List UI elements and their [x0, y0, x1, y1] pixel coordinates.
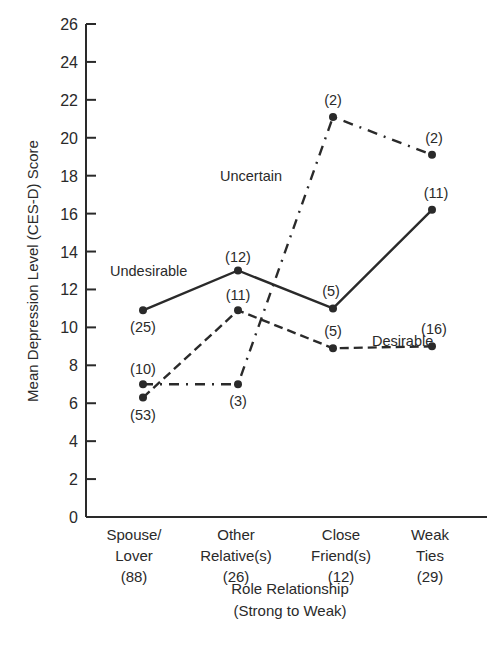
data-point [234, 267, 242, 275]
x-axis-categories: Spouse/Lover(88)OtherRelative(s)(26)Clos… [106, 526, 449, 585]
y-tick-label: 14 [60, 244, 78, 261]
y-tick-label: 4 [69, 433, 78, 450]
sample-size-label: (2) [324, 92, 342, 108]
data-point [234, 380, 242, 388]
y-tick-label: 16 [60, 206, 78, 223]
y-tick-label: 18 [60, 168, 78, 185]
data-point [329, 344, 337, 352]
y-tick-label: 6 [69, 395, 78, 412]
x-category-label: Relative(s) [200, 547, 272, 564]
series-lines [139, 113, 436, 402]
sample-size-label: (12) [225, 249, 251, 265]
x-category-label: Weak [411, 526, 450, 543]
sample-size-label: (11) [226, 287, 251, 303]
sample-size-label: (3) [229, 393, 247, 409]
series-label-undesirable: Undesirable [110, 263, 187, 279]
data-point [139, 380, 147, 388]
y-tick-label: 26 [60, 16, 78, 33]
y-tick-label: 2 [69, 471, 78, 488]
sample-size-label: (11) [424, 185, 449, 201]
x-axis-title-line1: Role Relationship [231, 580, 349, 597]
y-tick-label: 10 [60, 319, 78, 336]
series-label-desirable: Desirable [372, 333, 433, 349]
x-category-label: Other [217, 526, 255, 543]
series-line-undesirable [143, 210, 432, 310]
data-point [428, 206, 436, 214]
y-tick-label: 20 [60, 130, 78, 147]
data-point [329, 113, 337, 121]
y-axis-ticks: 02468101214161820222426 [60, 16, 96, 526]
sample-size-label: (2) [425, 130, 443, 146]
y-tick-label: 22 [60, 92, 78, 109]
sample-size-label: (10) [130, 361, 156, 377]
x-category-label: Ties [416, 547, 444, 564]
y-tick-label: 8 [69, 357, 78, 374]
y-axis-title: Mean Depression Level (CES-D) Score [24, 140, 41, 402]
sample-size-label: (5) [322, 283, 340, 299]
sample-size-label: (5) [324, 323, 342, 339]
sample-size-label: (53) [130, 407, 156, 423]
data-point [139, 394, 147, 402]
x-category-label: Spouse/ [106, 526, 162, 543]
y-tick-label: 24 [60, 54, 78, 71]
data-point [329, 304, 337, 312]
sample-size-label: (25) [130, 319, 156, 335]
x-category-label: (29) [417, 568, 444, 585]
x-category-label: (88) [121, 568, 148, 585]
data-point [139, 306, 147, 314]
x-category-label: Friend(s) [311, 547, 371, 564]
series-label-uncertain: Uncertain [220, 168, 282, 184]
data-point [234, 306, 242, 314]
x-category-label: Lover [115, 547, 153, 564]
x-category-label: Close [322, 526, 360, 543]
data-point [428, 151, 436, 159]
line-chart: 02468101214161820222426 Spouse/Lover(88)… [0, 0, 504, 665]
x-axis-title-line2: (Strong to Weak) [233, 602, 346, 619]
y-tick-label: 12 [60, 281, 78, 298]
y-tick-label: 0 [69, 509, 78, 526]
